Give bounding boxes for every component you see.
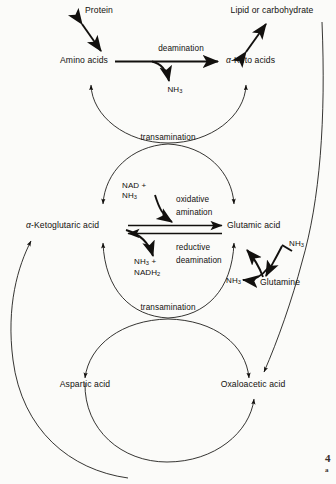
molecule-nh3-substrate: NH3 bbox=[122, 191, 146, 202]
pathway-diagram-svg bbox=[0, 0, 336, 484]
node-ketoglutaric-rest: -Ketoglutaric acid bbox=[31, 220, 99, 230]
node-keto-acids: α-Keto acids bbox=[226, 56, 275, 66]
arrow-protein-amino-acids bbox=[82, 24, 101, 51]
middle-circle bbox=[103, 144, 234, 318]
arrow-deamination bbox=[115, 62, 218, 82]
node-ketoglutaric-acid: α-Ketoglutaric acid bbox=[26, 221, 99, 231]
node-amino-acids: Amino acids bbox=[60, 56, 108, 66]
node-keto-acids-rest: -Keto acids bbox=[231, 55, 275, 65]
caption-text: a bbox=[325, 466, 329, 474]
molecule-nh3-nadh2-product: NH3 + NADH2 bbox=[134, 257, 160, 278]
molecule-nad-plus: NAD + bbox=[122, 181, 146, 191]
process-reductive: reductive bbox=[176, 243, 210, 252]
lower-transamination-circle bbox=[85, 319, 254, 462]
molecule-nh3-product: NH3 + bbox=[134, 257, 160, 268]
process-transamination-upper: transamination bbox=[140, 133, 195, 142]
arrow-keto-acids-lipid bbox=[246, 24, 266, 52]
curve-nad-nh3-into-reaction bbox=[155, 195, 172, 222]
molecule-nad-nh3-substrate: NAD + NH3 bbox=[122, 181, 146, 202]
outer-left-arc bbox=[11, 241, 128, 478]
process-amination: amination bbox=[176, 208, 212, 217]
molecule-nh3-deamination: NH3 bbox=[167, 86, 182, 95]
process-oxidative: oxidative bbox=[176, 195, 209, 204]
node-protein: Protein bbox=[85, 6, 113, 16]
process-transamination-lower: transamination bbox=[140, 303, 195, 312]
node-oxaloacetic-acid: Oxaloacetic acid bbox=[221, 380, 286, 390]
node-glutamine: Glutamine bbox=[260, 278, 300, 288]
caption-number: 4 bbox=[325, 452, 331, 464]
process-deamination: deamination bbox=[158, 44, 204, 53]
glutamine-branch bbox=[243, 245, 292, 280]
reversible-reaction-arrows bbox=[128, 226, 222, 234]
molecule-nadh2-product: NADH2 bbox=[134, 268, 160, 279]
outer-right-arc bbox=[264, 22, 323, 372]
node-glutamic-acid: Glutamic acid bbox=[227, 221, 280, 231]
node-lipid-or-carbohydrate: Lipid or carbohydrate bbox=[231, 6, 314, 16]
figure-canvas: Protein Lipid or carbohydrate Amino acid… bbox=[0, 0, 336, 484]
process-deamination-lower: deamination bbox=[176, 256, 222, 265]
molecule-nh3-glutamine-out: NH3 bbox=[226, 277, 241, 286]
node-aspartic-acid: Aspartic acid bbox=[60, 380, 111, 390]
molecule-nh3-glutamine-in: NH3 bbox=[289, 240, 304, 249]
